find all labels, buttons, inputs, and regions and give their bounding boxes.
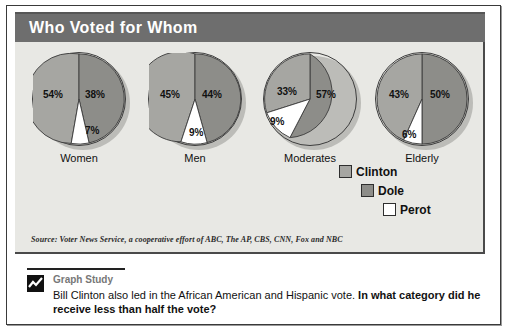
line-chart-icon [27,275,44,292]
graph-title-bar: Who Voted for Whom [15,12,485,42]
pie-elderly: 43% 50% 6% [375,52,469,146]
legend-label-clinton: Clinton [356,165,397,179]
slice-label-clinton: 54% [43,89,63,100]
section-divider [27,268,125,270]
slice-label-dole: 44% [202,89,222,100]
slice-label-perot: 6% [402,129,416,140]
pie-men: 45% 44% 9% [148,52,242,146]
legend-item-dole: Dole [325,183,465,198]
graph-study-question: Bill Clinton also led in the African Ame… [53,288,483,316]
pie-disc: 43% 50% 6% [375,52,469,146]
pie-disc: 54% 38% 7% [32,52,126,146]
pie-group-men: 45% 44% 9% Men [143,52,247,164]
pie-moderates: 33% 57% 9% [263,52,357,146]
pie-group-women: 54% 38% 7% Women [27,52,131,164]
graph-study-section: Graph Study Bill Clinton also led in the… [27,268,489,316]
legend-item-clinton: Clinton [325,164,465,179]
slice-label-clinton: 33% [277,86,297,97]
pie-group-elderly: 43% 50% 6% Elderly [370,52,474,164]
study-text-plain: Bill Clinton also led in the African Ame… [53,289,358,301]
category-label-men: Men [143,152,247,164]
pie-disc: 45% 44% 9% [148,52,242,146]
legend-swatch-clinton [339,165,352,178]
legend-swatch-dole [361,184,374,197]
category-label-women: Women [27,152,131,164]
slice-label-perot: 7% [85,125,99,136]
slice-label-perot: 9% [270,116,284,127]
slice-label-dole: 38% [85,89,105,100]
legend-swatch-perot [383,203,396,216]
legend-label-dole: Dole [378,184,404,198]
legend-label-perot: Perot [400,203,431,217]
chart-legend: Clinton Dole Perot [325,164,465,221]
page-title: Who Voted for Whom [29,19,198,37]
pie-women: 54% 38% 7% [32,52,126,146]
pie-chart-row: 54% 38% 7% Women [15,42,483,160]
category-label-elderly: Elderly [370,152,474,164]
slice-label-perot: 9% [189,127,203,138]
graph-study-heading: Graph Study [53,274,483,286]
graph-study-body: Graph Study Bill Clinton also led in the… [27,274,489,316]
slice-label-dole: 50% [430,89,450,100]
graph-study-text: Graph Study Bill Clinton also led in the… [53,274,483,316]
page-card: Who Voted for Whom [6,5,501,325]
slice-label-dole: 57% [316,89,336,100]
pie-slices-moderates [264,53,356,145]
category-label-moderates: Moderates [258,152,362,164]
chart-panel: 54% 38% 7% Women [15,42,485,254]
slice-label-clinton: 45% [160,89,180,100]
pie-group-moderates: 33% 57% 9% Moderates [258,52,362,164]
pie-disc: 33% 57% 9% [263,52,357,146]
chart-source-note: Source: Voter News Service, a cooperativ… [31,235,343,244]
legend-item-perot: Perot [325,202,465,217]
slice-label-clinton: 43% [389,89,409,100]
